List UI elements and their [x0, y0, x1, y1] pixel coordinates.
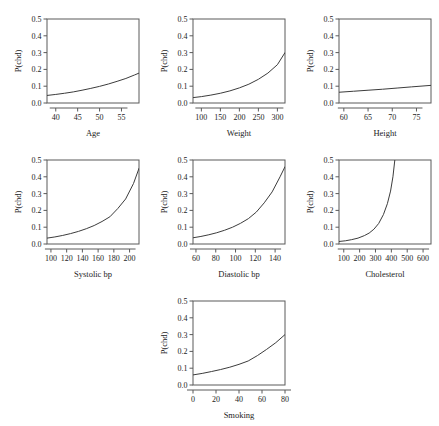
curve-diastolic-bp: [193, 167, 285, 238]
y-tick-label-height-5: 0.5: [324, 15, 334, 24]
plot-area-cholesterol: 0.00.10.20.30.40.5100200300400500600Chol…: [292, 143, 438, 285]
y-tick-label-cholesterol-4: 0.4: [324, 173, 334, 182]
x-tick-label-cholesterol-2: 300: [369, 254, 381, 263]
y-tick-label-weight-3: 0.3: [178, 49, 188, 58]
x-tick-label-systolic-bp-5: 200: [124, 254, 136, 263]
y-tick-label-smoking-5: 0.5: [178, 297, 188, 306]
panel-smoking: 0.00.10.20.30.40.5020406080SmokingP(chd): [146, 284, 292, 426]
y-tick-label-systolic-bp-3: 0.3: [32, 190, 42, 199]
y-tick-label-cholesterol-2: 0.2: [324, 206, 334, 215]
y-tick-label-height-1: 0.1: [324, 82, 334, 91]
x-tick-label-age-2: 50: [96, 113, 104, 122]
x-axis-title-age: Age: [86, 128, 100, 138]
plot-area-systolic-bp: 0.00.10.20.30.40.5100120140160180200Syst…: [0, 143, 146, 285]
y-tick-label-age-1: 0.1: [32, 82, 42, 91]
y-tick-label-systolic-bp-4: 0.4: [32, 173, 42, 182]
y-tick-label-age-3: 0.3: [32, 49, 42, 58]
plot-frame-height: [339, 19, 431, 103]
x-tick-label-diastolic-bp-3: 120: [249, 254, 261, 263]
y-tick-label-diastolic-bp-5: 0.5: [178, 156, 188, 165]
x-axis-title-height: Height: [373, 128, 397, 138]
x-tick-label-weight-2: 200: [233, 113, 245, 122]
x-tick-label-smoking-3: 60: [258, 395, 266, 404]
x-tick-label-weight-3: 250: [252, 113, 264, 122]
y-tick-label-smoking-4: 0.4: [178, 314, 188, 323]
x-axis-title-systolic-bp: Systolic bp: [74, 269, 112, 279]
plot-area-smoking: 0.00.10.20.30.40.5020406080SmokingP(chd): [146, 284, 292, 426]
y-tick-label-weight-4: 0.4: [178, 32, 188, 41]
y-tick-label-weight-0: 0.0: [178, 99, 188, 108]
y-tick-label-age-4: 0.4: [32, 32, 42, 41]
curve-height: [339, 85, 431, 92]
panel-height: 0.00.10.20.30.40.560657075HeightP(chd): [292, 2, 438, 144]
x-axis-title-weight: Weight: [227, 128, 252, 138]
x-tick-label-cholesterol-3: 400: [385, 254, 397, 263]
y-tick-label-diastolic-bp-1: 0.1: [178, 223, 188, 232]
plot-frame-cholesterol: [339, 160, 431, 244]
x-tick-label-diastolic-bp-4: 140: [269, 254, 281, 263]
y-axis-title-height: P(chd): [305, 50, 315, 73]
y-tick-label-age-2: 0.2: [32, 65, 42, 74]
regression-probability-figure: 0.00.10.20.30.40.540455055AgeP(chd)0.00.…: [0, 0, 439, 426]
x-tick-label-cholesterol-5: 600: [417, 254, 429, 263]
y-tick-label-height-0: 0.0: [324, 99, 334, 108]
y-tick-label-systolic-bp-1: 0.1: [32, 223, 42, 232]
y-tick-label-weight-5: 0.5: [178, 15, 188, 24]
y-tick-label-age-0: 0.0: [32, 99, 42, 108]
x-tick-label-diastolic-bp-2: 100: [230, 254, 242, 263]
x-tick-label-systolic-bp-1: 120: [61, 254, 73, 263]
y-tick-label-age-5: 0.5: [32, 15, 42, 24]
panel-systolic-bp: 0.00.10.20.30.40.5100120140160180200Syst…: [0, 143, 146, 285]
plot-frame-systolic-bp: [47, 160, 139, 244]
x-tick-label-height-3: 75: [412, 113, 420, 122]
x-tick-label-height-0: 60: [340, 113, 348, 122]
y-tick-label-systolic-bp-2: 0.2: [32, 206, 42, 215]
y-axis-title-systolic-bp: P(chd): [13, 191, 23, 214]
x-tick-label-cholesterol-1: 200: [354, 254, 366, 263]
y-tick-label-weight-2: 0.2: [178, 65, 188, 74]
y-axis-title-age: P(chd): [13, 50, 23, 73]
plot-area-height: 0.00.10.20.30.40.560657075HeightP(chd): [292, 2, 438, 144]
y-tick-label-smoking-0: 0.0: [178, 381, 188, 390]
y-tick-label-diastolic-bp-3: 0.3: [178, 190, 188, 199]
x-tick-label-age-3: 55: [117, 113, 125, 122]
curve-systolic-bp: [47, 168, 139, 238]
y-tick-label-smoking-2: 0.2: [178, 347, 188, 356]
y-axis-title-cholesterol: P(chd): [305, 191, 315, 214]
y-tick-label-smoking-3: 0.3: [178, 331, 188, 340]
x-tick-label-cholesterol-4: 500: [401, 254, 413, 263]
x-axis-title-cholesterol: Cholesterol: [365, 269, 405, 279]
x-tick-label-smoking-0: 0: [191, 395, 195, 404]
panel-diastolic-bp: 0.00.10.20.30.40.56080100120140Diastolic…: [146, 143, 292, 285]
y-tick-label-smoking-1: 0.1: [178, 364, 188, 373]
plot-frame-age: [47, 19, 139, 103]
y-tick-label-cholesterol-3: 0.3: [324, 190, 334, 199]
x-tick-label-diastolic-bp-0: 60: [192, 254, 200, 263]
x-tick-label-systolic-bp-4: 180: [108, 254, 120, 263]
y-tick-label-diastolic-bp-2: 0.2: [178, 206, 188, 215]
plot-area-diastolic-bp: 0.00.10.20.30.40.56080100120140Diastolic…: [146, 143, 292, 285]
y-axis-title-weight: P(chd): [159, 50, 169, 73]
curve-cholesterol: [339, 160, 395, 241]
curve-weight: [193, 53, 285, 98]
y-tick-label-systolic-bp-0: 0.0: [32, 240, 42, 249]
x-tick-label-systolic-bp-3: 160: [92, 254, 104, 263]
x-tick-label-age-0: 40: [52, 113, 60, 122]
y-tick-label-height-2: 0.2: [324, 65, 334, 74]
panel-age: 0.00.10.20.30.40.540455055AgeP(chd): [0, 2, 146, 144]
plot-area-age: 0.00.10.20.30.40.540455055AgeP(chd): [0, 2, 146, 144]
x-tick-label-height-1: 65: [364, 113, 372, 122]
y-tick-label-systolic-bp-5: 0.5: [32, 156, 42, 165]
y-axis-title-diastolic-bp: P(chd): [159, 191, 169, 214]
y-tick-label-cholesterol-0: 0.0: [324, 240, 334, 249]
panel-cholesterol: 0.00.10.20.30.40.5100200300400500600Chol…: [292, 143, 438, 285]
y-tick-label-weight-1: 0.1: [178, 82, 188, 91]
x-tick-label-weight-1: 150: [214, 113, 226, 122]
curve-smoking: [193, 335, 285, 375]
y-tick-label-cholesterol-5: 0.5: [324, 156, 334, 165]
y-tick-label-height-3: 0.3: [324, 49, 334, 58]
y-tick-label-diastolic-bp-4: 0.4: [178, 173, 188, 182]
x-axis-title-smoking: Smoking: [224, 410, 255, 420]
plot-area-weight: 0.00.10.20.30.40.5100150200250300WeightP…: [146, 2, 292, 144]
panel-weight: 0.00.10.20.30.40.5100150200250300WeightP…: [146, 2, 292, 144]
